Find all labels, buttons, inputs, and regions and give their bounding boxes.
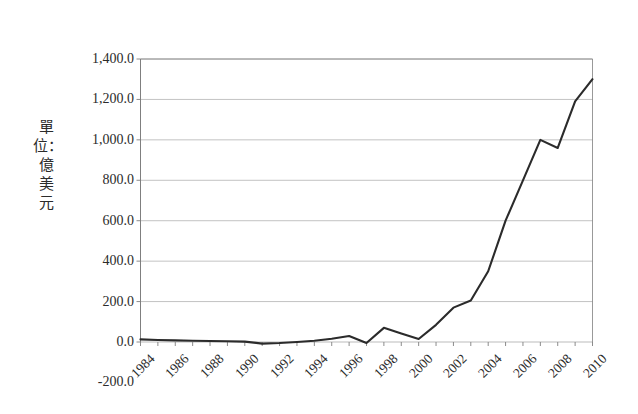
plot-frame bbox=[141, 59, 593, 342]
plot-area bbox=[0, 0, 638, 414]
y-axis-ticks bbox=[137, 59, 141, 342]
series-line bbox=[141, 79, 593, 343]
gridlines bbox=[141, 59, 593, 342]
data-series-line bbox=[141, 79, 593, 343]
line-chart-figure: 單位：億美元 1,400.01,200.01,000.0800.0600.040… bbox=[0, 0, 638, 414]
